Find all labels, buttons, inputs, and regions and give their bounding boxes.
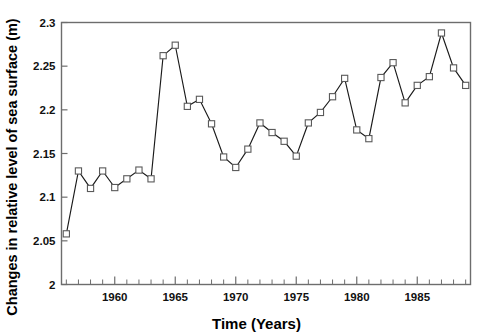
- data-point-marker: [463, 82, 469, 88]
- data-point-marker: [196, 96, 202, 102]
- data-point-marker: [172, 42, 178, 48]
- x-tick-label: 1965: [162, 291, 188, 303]
- data-point-marker: [450, 65, 456, 71]
- data-point-marker: [221, 154, 227, 160]
- data-point-marker: [281, 138, 287, 144]
- data-point-marker: [390, 60, 396, 66]
- y-tick-label: 2.25: [33, 60, 56, 72]
- data-point-marker: [208, 121, 214, 127]
- x-tick-label: 1980: [344, 291, 370, 303]
- data-point-marker: [148, 176, 154, 182]
- data-point-marker: [233, 164, 239, 170]
- x-tick-label: 1970: [223, 291, 249, 303]
- x-tick-label: 1960: [102, 291, 128, 303]
- data-point-marker: [184, 103, 190, 109]
- y-axis-tick-labels: 22.052.12.152.22.252.3: [33, 17, 56, 291]
- x-tick-label: 1975: [283, 291, 309, 303]
- plot-canvas: 22.052.12.152.22.252.3 19601965197019751…: [0, 0, 483, 334]
- data-point-markers: [63, 30, 469, 237]
- y-tick-label: 2.2: [40, 104, 56, 116]
- data-point-marker: [245, 146, 251, 152]
- data-point-marker: [87, 185, 93, 191]
- data-point-marker: [354, 127, 360, 133]
- data-series-line: [66, 33, 465, 234]
- data-point-marker: [124, 176, 130, 182]
- data-point-marker: [136, 167, 142, 173]
- data-point-marker: [414, 82, 420, 88]
- x-axis-tick-marks: [66, 277, 465, 285]
- x-tick-label: 1985: [404, 291, 430, 303]
- data-point-marker: [329, 94, 335, 100]
- data-point-marker: [269, 129, 275, 135]
- data-point-marker: [293, 153, 299, 159]
- chart-figure: Changes in relative level of sea surface…: [0, 0, 483, 334]
- data-point-marker: [366, 136, 372, 142]
- x-axis-label: Time (Years): [182, 315, 301, 332]
- data-point-marker: [426, 74, 432, 80]
- y-tick-label: 2.05: [33, 235, 56, 247]
- data-point-marker: [402, 100, 408, 106]
- y-tick-label: 2.15: [33, 148, 56, 160]
- y-axis-tick-marks: [62, 23, 68, 285]
- data-point-marker: [100, 168, 106, 174]
- data-point-marker: [112, 184, 118, 190]
- y-tick-label: 2: [49, 279, 55, 291]
- data-point-marker: [63, 231, 69, 237]
- y-tick-label: 2.1: [40, 191, 57, 203]
- x-axis-tick-labels: 196019651970197519801985: [102, 291, 431, 303]
- plot-frame: [62, 23, 471, 285]
- data-point-marker: [438, 30, 444, 36]
- data-point-marker: [75, 168, 81, 174]
- data-point-marker: [160, 53, 166, 59]
- y-tick-label: 2.3: [40, 17, 56, 29]
- x-axis-label-container: Time (Years): [0, 315, 483, 332]
- data-point-marker: [342, 75, 348, 81]
- data-point-marker: [305, 120, 311, 126]
- data-point-marker: [378, 74, 384, 80]
- data-point-marker: [317, 109, 323, 115]
- data-point-marker: [257, 120, 263, 126]
